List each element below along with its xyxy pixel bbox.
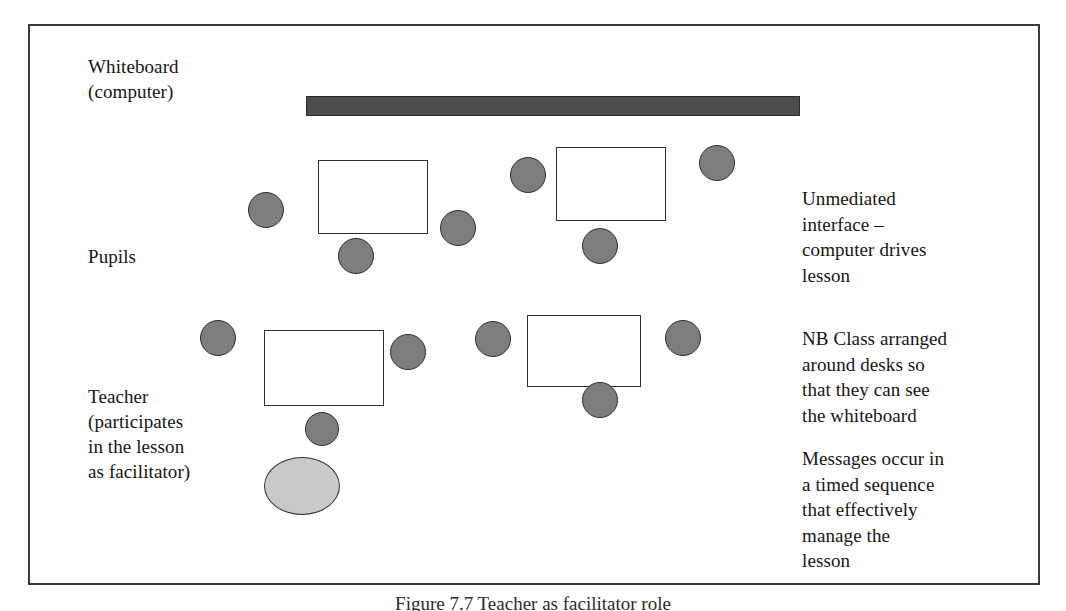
- desk-top-left: [318, 160, 428, 234]
- pupil-circle: [440, 210, 476, 246]
- label-whiteboard: Whiteboard (computer): [88, 54, 179, 104]
- note-unmediated-interface: Unmediated interface – computer drives l…: [802, 186, 1032, 288]
- pupil-circle: [200, 320, 236, 356]
- desk-bottom-left: [264, 330, 384, 406]
- teacher-circle: [264, 457, 340, 515]
- pupil-circle: [475, 321, 511, 357]
- figure-caption: Figure 7.7 Teacher as facilitator role: [0, 592, 1066, 611]
- pupil-circle: [390, 334, 426, 370]
- pupil-circle: [248, 192, 284, 228]
- label-teacher: Teacher (participates in the lesson as f…: [88, 384, 190, 484]
- pupil-circle: [305, 412, 339, 446]
- pupil-circle: [699, 145, 735, 181]
- pupil-circle: [665, 320, 701, 356]
- pupil-circle: [338, 238, 374, 274]
- pupil-circle: [582, 382, 618, 418]
- whiteboard-bar: [306, 96, 800, 116]
- desk-top-right: [556, 147, 666, 221]
- pupil-circle: [582, 228, 618, 264]
- note-class-arrangement: NB Class arranged around desks so that t…: [802, 326, 1032, 428]
- pupil-circle: [510, 157, 546, 193]
- figure-frame: Whiteboard (computer) Pupils Teacher (pa…: [28, 24, 1040, 585]
- note-timed-messages: Messages occur in a timed sequence that …: [802, 446, 1032, 574]
- desk-bottom-right: [527, 315, 641, 387]
- label-pupils: Pupils: [88, 244, 136, 269]
